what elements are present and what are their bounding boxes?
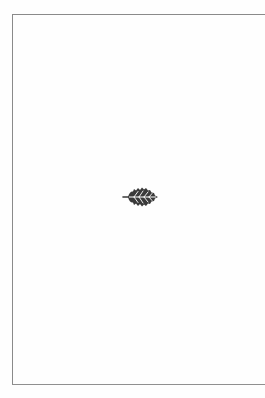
- frame-top-rule: [12, 14, 265, 15]
- book-page: [0, 0, 265, 398]
- frame-left-rule: [12, 14, 13, 385]
- frame-bottom-rule: [12, 384, 265, 385]
- leaf-fleuron-icon: [122, 185, 160, 209]
